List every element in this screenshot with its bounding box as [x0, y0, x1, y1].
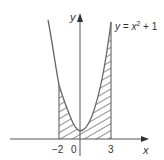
y-axis-label: y [69, 11, 77, 23]
y-axis-arrow-icon [77, 13, 83, 22]
tick-label-3: 3 [108, 144, 114, 155]
shaded-area [59, 27, 111, 139]
x-axis-arrow-icon [141, 136, 149, 142]
tick-label-minus-2: −2 [52, 144, 64, 155]
x-axis-label: x [142, 144, 149, 156]
equation-label: y = x2 + 1 [114, 20, 158, 32]
equation-prefix: y = x [114, 21, 137, 32]
function-graph: y x 0 −2 3 y = x2 + 1 [0, 0, 164, 160]
origin-label: 0 [71, 144, 77, 155]
equation-suffix: + 1 [140, 21, 157, 32]
